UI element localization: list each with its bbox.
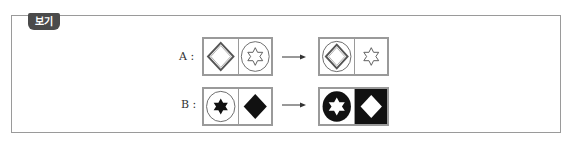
row-b-after-pair <box>318 87 389 126</box>
row-b-after-cell-1 <box>320 89 354 124</box>
row-b-after-cell-2 <box>354 89 388 124</box>
row-a-before-cell-1 <box>204 39 238 74</box>
row-a-before-pair <box>202 37 273 76</box>
hexagram-in-circle-icon <box>239 39 272 74</box>
row-a-before-cell-2 <box>238 39 272 74</box>
row-a-after-cell-1 <box>320 39 354 74</box>
row-a-after-cell-2 <box>354 39 388 74</box>
example-badge: 보기 <box>28 13 60 30</box>
white-hexagram-in-black-circle-icon <box>320 89 354 124</box>
row-label-b: B : <box>181 98 196 111</box>
white-diamond-on-black-icon <box>355 89 388 124</box>
row-a-after-pair <box>318 37 389 76</box>
diamond-outline-icon <box>204 39 238 74</box>
diamond-in-circle-icon <box>320 39 354 74</box>
filled-hexagram-in-circle-icon <box>204 89 238 124</box>
row-b-before-cell-2 <box>238 89 272 124</box>
right-arrow-icon <box>282 101 306 109</box>
right-arrow-icon <box>282 53 306 61</box>
hexagram-outline-icon <box>355 39 388 74</box>
row-b-before-pair <box>202 87 273 126</box>
row-b-before-cell-1 <box>204 89 238 124</box>
example-box-frame <box>11 15 561 133</box>
filled-diamond-icon <box>239 89 272 124</box>
row-label-a: A : <box>179 50 194 63</box>
